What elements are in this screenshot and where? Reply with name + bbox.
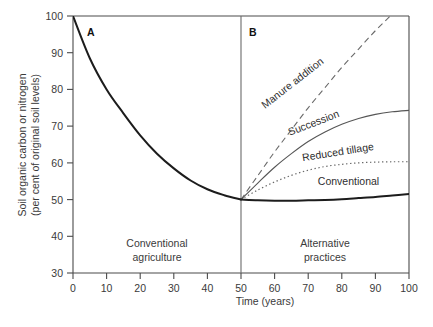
- x-tick-label: 50: [235, 282, 247, 294]
- y-tick-label: 100: [45, 10, 63, 22]
- x-axis-ticks: [73, 273, 409, 279]
- x-axis-title: Time (years): [236, 295, 295, 307]
- curve-labels: Manure addition Succession Reduced tilla…: [259, 55, 379, 187]
- region-label-conventional-agriculture: Conventional agriculture: [126, 237, 187, 263]
- y-axis-title-line1: Soil organic carbon or nitrogen: [16, 73, 28, 216]
- curve-label-reduced-tillage: Reduced tillage: [301, 140, 375, 163]
- region-label-alternative-practices: Alternative practices: [300, 237, 350, 263]
- panel-letter-a: A: [87, 26, 95, 38]
- x-tick-label: 80: [336, 282, 348, 294]
- curve-conventional: [241, 194, 409, 201]
- y-tick-label: 80: [51, 83, 63, 95]
- x-tick-label: 90: [370, 282, 382, 294]
- y-tick-label: 90: [51, 47, 63, 59]
- y-axis-title-line2: (per cent of original soil levels): [29, 74, 41, 216]
- y-tick-label: 60: [51, 157, 63, 169]
- soil-carbon-line-chart: 100 90 80 70 60 50 40 30 0 10 2: [0, 0, 433, 327]
- region-label-line2: practices: [304, 251, 346, 263]
- curve-label-conventional: Conventional: [318, 175, 379, 187]
- panel-letter-b: B: [249, 26, 257, 38]
- y-tick-label: 30: [51, 267, 63, 279]
- region-label-line1: Conventional: [126, 237, 187, 249]
- curve-label-manure-addition: Manure addition: [259, 55, 326, 111]
- y-axis-ticks: [67, 16, 73, 273]
- y-axis-tick-labels: 100 90 80 70 60 50 40 30: [45, 10, 63, 279]
- x-tick-label: 10: [101, 282, 113, 294]
- x-axis-tick-labels: 0 10 20 30 40 50 60 70 80 90 100: [70, 282, 418, 294]
- region-label-line2: agriculture: [132, 251, 181, 263]
- y-tick-label: 40: [51, 230, 63, 242]
- x-tick-label: 60: [269, 282, 281, 294]
- x-tick-label: 40: [202, 282, 214, 294]
- x-tick-label: 0: [70, 282, 76, 294]
- y-tick-label: 50: [51, 194, 63, 206]
- x-tick-label: 30: [168, 282, 180, 294]
- region-label-line1: Alternative: [300, 237, 350, 249]
- chart-figure: 100 90 80 70 60 50 40 30 0 10 2: [0, 0, 433, 327]
- x-tick-label: 20: [134, 282, 146, 294]
- x-tick-label: 70: [302, 282, 314, 294]
- x-tick-label: 100: [400, 282, 418, 294]
- curve-decline: [73, 16, 241, 200]
- y-tick-label: 70: [51, 120, 63, 132]
- curve-label-succession: Succession: [286, 107, 341, 138]
